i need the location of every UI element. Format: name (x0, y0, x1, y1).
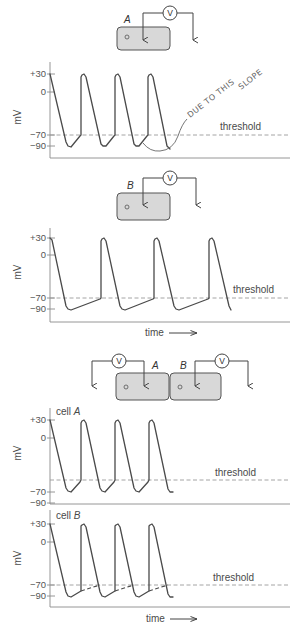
tick-minus90: −90 (30, 590, 46, 601)
panel-cell-a-isolated: A V +30 0 −70 −90 mV threshold DUE TO TH… (12, 6, 290, 158)
dashed-extension-line (81, 585, 100, 591)
handwritten-annotation: DUE TO THIS SLOPE (143, 67, 264, 151)
tick-0: 0 (41, 249, 46, 260)
cell-b-electrode-diagram: B V (117, 171, 196, 220)
tick-0: 0 (41, 86, 46, 97)
time-axis-label: time (145, 327, 164, 338)
y-axis-label: mV (12, 445, 23, 460)
tick-minus70: −70 (30, 579, 46, 590)
tick-0: 0 (41, 432, 46, 443)
axes (50, 510, 290, 607)
tick-0: 0 (41, 536, 46, 547)
panel-coupled-cell-a: cell A +30 0 −70 −90 mV threshold (12, 406, 290, 508)
dashed-pacemaker-extensions (81, 585, 168, 591)
reference-electrode-arrow-icon (177, 13, 193, 40)
threshold-label: threshold (215, 467, 256, 478)
annotation-line2: SLOPE (237, 67, 265, 91)
tick-minus90: −90 (30, 497, 46, 508)
panel-coupled-cell-b: cell B +30 0 −70 −90 mV threshold time (12, 510, 290, 624)
coupled-cell-b-label: B (180, 360, 187, 371)
tick-plus30: +30 (30, 68, 46, 79)
cell-a-electrode-diagram: A V (117, 6, 193, 50)
voltmeter-a-symbol: V (116, 356, 122, 366)
cell-b-reference-electrode-arrow-icon (229, 361, 248, 386)
y-axis-label: mV (12, 264, 23, 279)
membrane-potential-trace-b (50, 238, 231, 310)
time-axis-label: time (146, 613, 165, 624)
tick-minus90: −90 (30, 140, 46, 151)
tick-minus70: −70 (30, 292, 46, 303)
dashed-extension-line (149, 585, 168, 591)
tick-plus30: +30 (30, 232, 46, 243)
trace-label-cell: B (74, 510, 81, 521)
trace-label-cell: A (73, 406, 81, 417)
threshold-label: threshold (220, 121, 261, 132)
coupled-cells-diagram: A B V V (92, 354, 248, 400)
tick-minus70: −70 (30, 129, 46, 140)
trace-label-prefix: cell B (56, 510, 81, 521)
panel-cell-b-isolated: B V +30 0 −70 −90 mV threshold time (12, 171, 290, 338)
y-axis-label: mV (12, 109, 23, 124)
cell-b-label: B (127, 180, 134, 191)
coupled-cell-a-label: A (151, 360, 159, 371)
annotation-line1: DUE TO THIS (186, 77, 237, 119)
threshold-label: threshold (233, 284, 274, 295)
reference-electrode-arrow-icon (177, 178, 196, 205)
trace-label-prefix: cell A (56, 406, 81, 417)
membrane-potential-trace-coupled-b (50, 524, 173, 597)
cell-a-label: A (123, 14, 131, 25)
tick-minus90: −90 (30, 303, 46, 314)
action-potential-figure: A V +30 0 −70 −90 mV threshold DUE TO TH… (0, 0, 301, 629)
threshold-label: threshold (213, 572, 254, 583)
y-axis-label: mV (12, 550, 23, 565)
cell-a-reference-electrode-arrow-icon (92, 361, 112, 386)
tick-minus70: −70 (30, 486, 46, 497)
tick-plus30: +30 (30, 414, 46, 425)
membrane-potential-trace-a (50, 74, 170, 149)
dashed-extension-line (115, 585, 134, 591)
voltmeter-symbol: V (167, 8, 173, 18)
tick-plus30: +30 (30, 518, 46, 529)
voltmeter-b-symbol: V (219, 356, 225, 366)
y-ticks (47, 420, 55, 503)
axes (50, 228, 290, 322)
voltmeter-symbol: V (167, 173, 173, 183)
membrane-potential-trace-coupled-a (50, 420, 173, 492)
